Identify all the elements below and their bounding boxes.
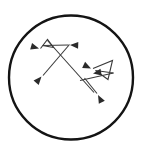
left-arrow-cluster	[41, 40, 69, 49]
outer-circle	[9, 16, 133, 140]
icon-canvas	[0, 0, 154, 156]
arrowhead-down-right-icon	[98, 95, 105, 104]
right-down-segment	[85, 78, 98, 94]
arrowhead-right-lower-icon	[93, 69, 102, 76]
arrowhead-down-left-icon	[34, 77, 42, 85]
arrows-in-circle-illustration	[0, 0, 154, 156]
arrow-sketch-group	[30, 40, 113, 104]
arrowhead-left-upper-icon	[30, 43, 39, 50]
arrowheads-group	[30, 42, 105, 104]
arrowhead-right-upper-icon	[70, 42, 78, 49]
left-to-right-segment	[43, 45, 69, 46]
left-zigzag-path	[41, 40, 54, 49]
arrowhead-left-lower-icon	[82, 62, 91, 69]
